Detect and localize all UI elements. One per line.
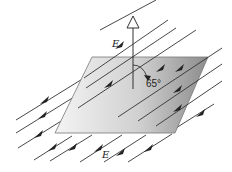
- field-label-bottom: E: [101, 149, 110, 160]
- arrowhead-icon: [144, 144, 153, 152]
- flat-surface: [55, 57, 208, 133]
- open-arrowhead-icon: [127, 16, 139, 28]
- arrowhead-icon: [38, 111, 47, 119]
- electric-flux-diagram: E E 65°: [0, 0, 232, 172]
- arrowhead-icon: [68, 143, 77, 151]
- field-label-top: E: [111, 38, 120, 49]
- angle-label: 65°: [146, 78, 161, 89]
- arrowhead-icon: [34, 130, 43, 138]
- arrowhead-icon: [48, 143, 57, 151]
